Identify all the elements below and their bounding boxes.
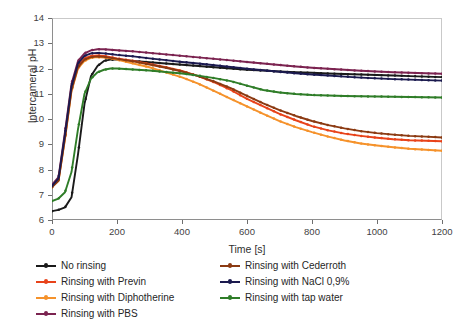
x-tick-mark: [247, 220, 248, 224]
y-tick-mark: [48, 170, 52, 171]
legend-marker-icon: [220, 293, 240, 302]
legend-item-label: Rinsing with Previn: [61, 276, 146, 287]
y-tick-mark: [48, 43, 52, 44]
x-tick-label: 1200: [422, 226, 462, 237]
x-tick-label: 0: [32, 226, 72, 237]
series-line: [52, 67, 442, 202]
x-tick-mark: [312, 220, 313, 224]
x-tick-label: 200: [97, 226, 137, 237]
y-tick-mark: [48, 144, 52, 145]
legend-item-label: Rinsing with PBS: [61, 308, 138, 319]
legend-marker-icon: [220, 277, 240, 286]
legend-item-label: Rinsing with tap water: [245, 292, 343, 303]
legend-column-left: No rinsingRinsing with PrevinRinsing wit…: [36, 258, 206, 322]
legend-item[interactable]: Rinsing with NaCl 0,9%: [220, 274, 420, 289]
x-tick-label: 1000: [357, 226, 397, 237]
x-axis-title: Time [s]: [52, 243, 442, 255]
legend-item[interactable]: Rinsing with tap water: [220, 290, 420, 305]
y-tick-label: 7: [10, 189, 44, 200]
x-tick-mark: [117, 220, 118, 224]
y-tick-mark: [48, 119, 52, 120]
legend-item[interactable]: No rinsing: [36, 258, 206, 273]
y-tick-mark: [48, 195, 52, 196]
series-line: [52, 54, 442, 187]
legend-marker-icon: [36, 309, 56, 318]
x-tick-mark: [52, 220, 53, 224]
chart-figure: 14131211109876 020040060080010001200 Int…: [0, 0, 467, 324]
legend-item-label: Rinsing with Diphotherine: [61, 292, 174, 303]
legend-marker-icon: [220, 261, 240, 270]
series-line: [52, 58, 442, 212]
legend-marker-icon: [36, 261, 56, 270]
legend-item[interactable]: Rinsing with Previn: [36, 274, 206, 289]
x-tick-mark: [442, 220, 443, 224]
plot-area: 14131211109876 020040060080010001200 Int…: [0, 0, 467, 246]
legend-item[interactable]: Rinsing with Cederroth: [220, 258, 420, 273]
y-tick-label: 14: [10, 12, 44, 23]
y-tick-mark: [48, 69, 52, 70]
y-tick-label: 8: [10, 164, 44, 175]
legend-item-label: Rinsing with NaCl 0,9%: [245, 276, 350, 287]
legend-marker-icon: [36, 277, 56, 286]
y-axis-title: Intercameral pH: [26, 26, 38, 146]
legend-item[interactable]: Rinsing with Diphotherine: [36, 290, 206, 305]
y-tick-label: 6: [10, 214, 44, 225]
x-tick-mark: [377, 220, 378, 224]
legend-item-label: No rinsing: [61, 260, 106, 271]
legend-item-label: Rinsing with Cederroth: [245, 260, 346, 271]
x-tick-mark: [182, 220, 183, 224]
y-tick-mark: [48, 94, 52, 95]
legend-marker-icon: [36, 293, 56, 302]
x-tick-label: 600: [227, 226, 267, 237]
x-tick-label: 800: [292, 226, 332, 237]
y-tick-mark: [48, 18, 52, 19]
chart-legend: No rinsingRinsing with PrevinRinsing wit…: [30, 258, 460, 322]
legend-column-right: Rinsing with CederrothRinsing with NaCl …: [220, 258, 420, 306]
chart-canvas: [52, 18, 442, 220]
x-tick-label: 400: [162, 226, 202, 237]
legend-item[interactable]: Rinsing with PBS: [36, 306, 206, 321]
